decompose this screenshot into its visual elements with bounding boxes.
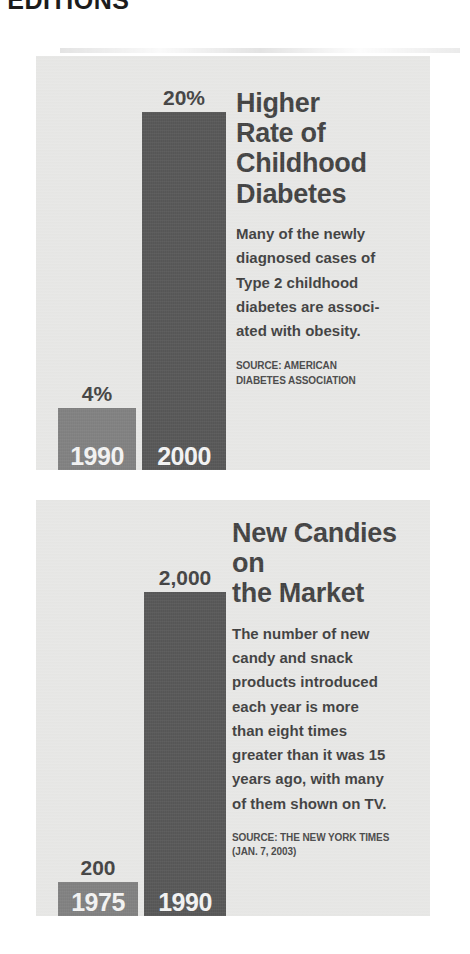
bar-value-1975: 200 <box>58 857 138 878</box>
bar-year-label-1990-candies: 1990 <box>144 890 226 915</box>
bar-chart-candies: 200 1975 2,000 1990 <box>36 524 226 916</box>
chart-panel-candies: 200 1975 2,000 1990 New Candies on the M… <box>36 500 430 916</box>
source-credit-candies: SOURCE: THE NEW YORK TIMES (JAN. 7, 2003… <box>232 831 420 859</box>
bar-value-1990-candies: 2,000 <box>144 567 226 588</box>
bar-group-2000: 20% 2000 <box>142 90 226 470</box>
body-line: Type 2 childhood <box>236 271 412 295</box>
headline-line: New Candies on <box>232 518 420 578</box>
text-column-diabetes: Higher Rate of Childhood Diabetes Many o… <box>236 88 412 388</box>
text-column-candies: New Candies on the Market The number of … <box>232 518 420 859</box>
bar-2000 <box>142 112 226 470</box>
headline-line: Diabetes <box>236 179 412 209</box>
source-line: (JAN. 7, 2003) <box>232 845 420 859</box>
headline-diabetes: Higher Rate of Childhood Diabetes <box>236 88 412 209</box>
bar-value-2000: 20% <box>142 87 226 108</box>
body-line: The number of new <box>232 622 420 646</box>
chart-panel-diabetes: 4% 1990 20% 2000 Higher Rate of Childhoo… <box>36 56 430 470</box>
bar-group-1990-candies: 2,000 1990 <box>144 524 226 916</box>
headline-line: Higher <box>236 88 412 118</box>
bar-year-label-1990: 1990 <box>58 444 136 469</box>
bar-year-label-2000: 2000 <box>142 444 226 469</box>
source-line: SOURCE: THE NEW YORK TIMES <box>232 831 420 845</box>
headline-line: Rate of <box>236 118 412 148</box>
scan-artifact-band <box>60 48 460 53</box>
body-line: greater than it was 15 <box>232 743 420 767</box>
headline-candies: New Candies on the Market <box>232 518 420 609</box>
body-line: candy and snack <box>232 646 420 670</box>
body-line: diagnosed cases of <box>236 246 412 270</box>
body-line: Many of the newly <box>236 222 412 246</box>
bar-chart-diabetes: 4% 1990 20% 2000 <box>36 90 226 470</box>
headline-line: Childhood <box>236 148 412 178</box>
body-line: each year is more <box>232 695 420 719</box>
running-head: AL EDITIONS <box>0 0 129 15</box>
body-line: diabetes are associ- <box>236 295 412 319</box>
source-line: SOURCE: AMERICAN <box>236 359 412 373</box>
body-line: products introduced <box>232 670 420 694</box>
body-copy-candies: The number of new candy and snack produc… <box>232 622 420 816</box>
headline-line: the Market <box>232 578 420 608</box>
bar-value-1990: 4% <box>58 383 136 404</box>
body-line: years ago, with many <box>232 767 420 791</box>
bar-year-label-1975: 1975 <box>58 890 138 915</box>
body-line: of them shown on TV. <box>232 792 420 816</box>
body-line: ated with obesity. <box>236 319 412 343</box>
bar-group-1990: 4% 1990 <box>58 90 136 470</box>
source-line: DIABETES ASSOCIATION <box>236 374 412 388</box>
source-credit-diabetes: SOURCE: AMERICAN DIABETES ASSOCIATION <box>236 359 412 387</box>
body-copy-diabetes: Many of the newly diagnosed cases of Typ… <box>236 222 412 343</box>
bar-1990-candies <box>144 592 226 916</box>
body-line: than eight times <box>232 719 420 743</box>
bar-group-1975: 200 1975 <box>58 524 138 916</box>
